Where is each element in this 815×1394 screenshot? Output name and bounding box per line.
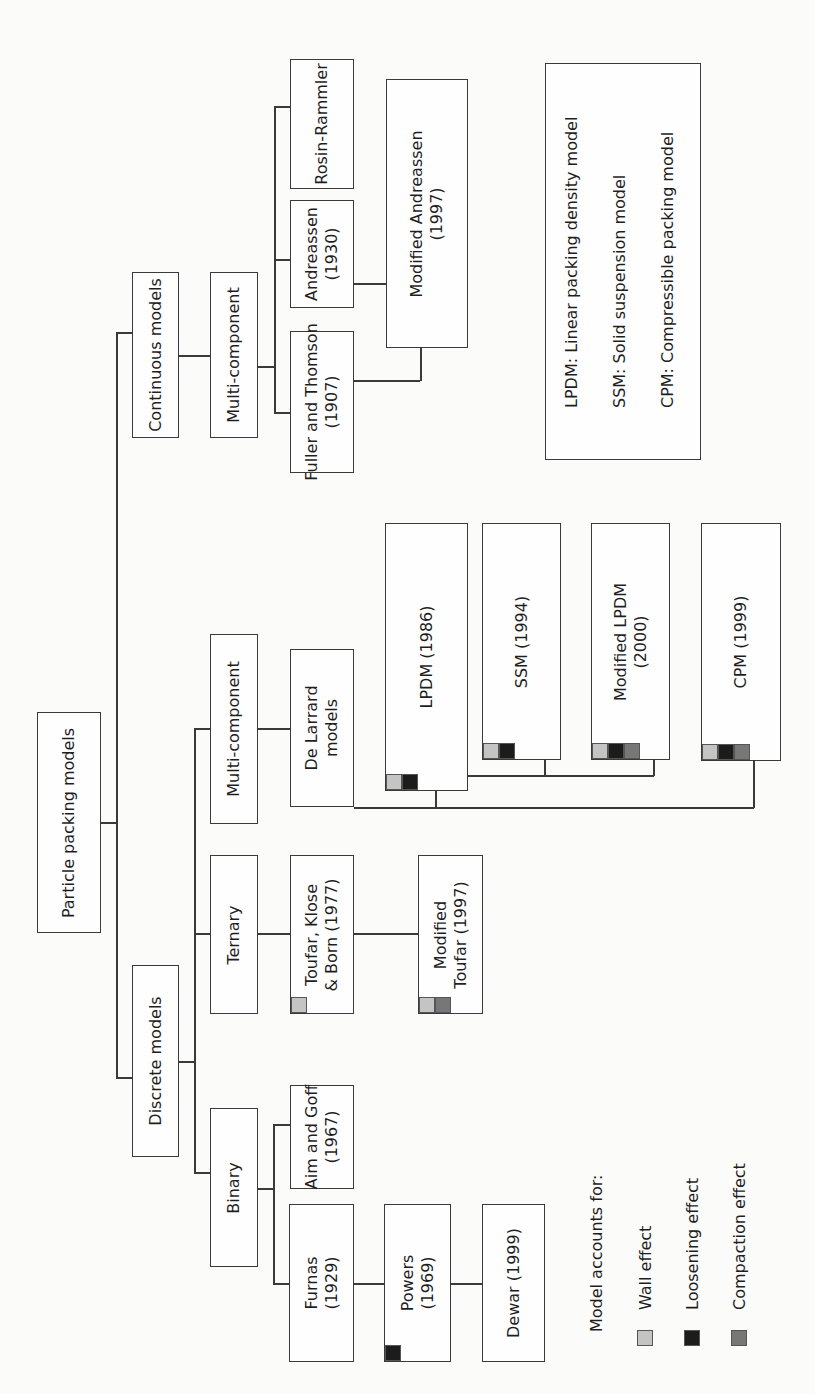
connector (194, 728, 196, 1173)
connector (273, 1283, 290, 1285)
rosin-rammler-label: Rosin-Rammler (312, 63, 332, 185)
loosening-effect-swatch (684, 1330, 700, 1346)
connector (354, 1283, 384, 1285)
legend-loosening-label: Loosening effect (683, 1178, 703, 1310)
connector (370, 807, 754, 809)
connector (194, 728, 210, 730)
furnas-node: Furnas (1929) (289, 1204, 354, 1362)
connector (273, 1124, 290, 1126)
loosening-effect-marker (718, 744, 734, 760)
connector (653, 760, 655, 776)
abbr-ssm: SSM: Solid suspension model (610, 175, 630, 408)
wall-effect-marker (592, 743, 608, 759)
andreassen-label: Andreassen (1930) (302, 207, 342, 301)
abbr-lpdm: LPDM: Linear packing density model (562, 117, 582, 408)
dewar-label: Dewar (1999) (504, 1228, 524, 1338)
lpdm-label: LPDM (1986) (417, 606, 437, 709)
legend-title: Model accounts for: (587, 1175, 607, 1332)
binary-label: Binary (224, 1162, 244, 1213)
connector (420, 348, 422, 381)
cpm-label: CPM (1999) (731, 596, 751, 689)
connector (179, 355, 210, 357)
continuous-models-node: Continuous models (132, 272, 179, 438)
furnas-label: Furnas (1929) (302, 1256, 342, 1309)
connector (354, 933, 418, 935)
connector (274, 259, 290, 261)
legend-compaction-label: Compaction effect (730, 1163, 750, 1310)
ssm-label: SSM (1994) (512, 595, 532, 687)
connector (753, 760, 755, 808)
connector (194, 933, 210, 935)
fuller-thomson-label: Fuller and Thomson (1907) (302, 323, 342, 481)
connector (258, 366, 274, 368)
connector (116, 332, 132, 334)
discrete-multicomponent-node: Multi-component (210, 634, 258, 824)
connector (258, 728, 290, 730)
powers-label: Powers (1969) (398, 1255, 438, 1312)
continuous-models-label: Continuous models (146, 278, 166, 432)
toufar-label: Toufar, Klose & Born (1977) (302, 878, 342, 991)
compaction-effect-marker (624, 743, 640, 759)
connector (116, 1077, 132, 1079)
wall-effect-marker (386, 774, 402, 790)
connector (468, 775, 654, 777)
compaction-effect-marker (734, 744, 750, 760)
wall-effect-marker (702, 744, 718, 760)
loosening-effect-marker (499, 743, 515, 759)
abbreviations-box: LPDM: Linear packing density model SSM: … (545, 63, 701, 460)
de-larrard-node: De Larrard models (290, 649, 354, 807)
connector (258, 1188, 273, 1190)
wall-effect-marker (291, 997, 307, 1013)
de-larrard-label: De Larrard models (302, 685, 342, 770)
connector (258, 933, 290, 935)
connector (116, 332, 118, 1078)
modified-lpdm-node: Modified LPDM (2000) (591, 523, 670, 760)
discrete-models-label: Discrete models (146, 996, 166, 1125)
loosening-effect-marker (385, 1345, 401, 1361)
connector (274, 412, 290, 414)
wall-effect-marker (483, 743, 499, 759)
wall-effect-marker (419, 997, 435, 1013)
connector (544, 760, 546, 776)
connector (179, 1061, 194, 1063)
compaction-effect-marker (435, 997, 451, 1013)
andreassen-node: Andreassen (1930) (290, 200, 354, 308)
binary-node: Binary (210, 1108, 258, 1267)
modified-andreassen-label: Modified Andreassen (1997) (407, 130, 447, 297)
fuller-thomson-node: Fuller and Thomson (1907) (290, 331, 354, 473)
connector (274, 106, 290, 108)
lpdm-node: LPDM (1986) (385, 523, 468, 791)
aim-goff-label: Aim and Goff (1967) (302, 1085, 342, 1189)
compaction-effect-swatch (731, 1330, 747, 1346)
continuous-multicomponent-label: Multi-component (224, 287, 244, 422)
root-label: Particle packing models (59, 727, 79, 917)
connector (101, 822, 117, 824)
dewar-node: Dewar (1999) (482, 1204, 545, 1362)
loosening-effect-marker (402, 774, 418, 790)
wall-effect-swatch (637, 1330, 653, 1346)
abbr-cpm: CPM: Compressible packing model (658, 132, 678, 408)
cpm-node: CPM (1999) (701, 523, 781, 761)
continuous-multicomponent-node: Multi-component (210, 272, 258, 438)
toufar-node: Toufar, Klose & Born (1977) (290, 855, 354, 1014)
modified-lpdm-label: Modified LPDM (2000) (611, 582, 651, 700)
connector (435, 791, 437, 808)
discrete-multicomponent-label: Multi-component (224, 661, 244, 796)
ssm-node: SSM (1994) (482, 523, 561, 760)
root-node: Particle packing models (37, 712, 101, 933)
aim-goff-node: Aim and Goff (1967) (290, 1085, 354, 1189)
legend-wall-label: Wall effect (636, 1226, 656, 1310)
rosin-rammler-node: Rosin-Rammler (290, 59, 354, 189)
discrete-models-node: Discrete models (132, 965, 179, 1157)
connector (354, 380, 420, 382)
connector (273, 1124, 275, 1283)
loosening-effect-marker (608, 743, 624, 759)
ternary-node: Ternary (210, 855, 258, 1014)
modified-toufar-label: Modified Toufar (1997) (431, 881, 471, 988)
modified-toufar-node: Modified Toufar (1997) (418, 855, 483, 1014)
ternary-label: Ternary (224, 905, 244, 964)
modified-andreassen-node: Modified Andreassen (1997) (386, 79, 468, 348)
connector (194, 1172, 210, 1174)
powers-node: Powers (1969) (384, 1204, 451, 1362)
connector (451, 1283, 482, 1285)
